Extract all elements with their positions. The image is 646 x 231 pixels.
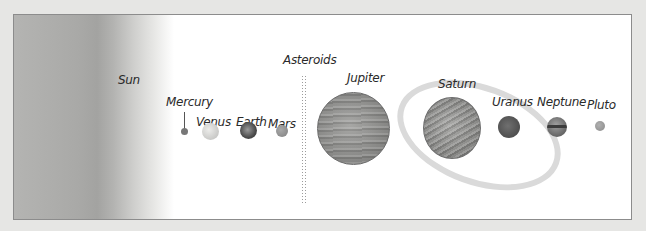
planet-uranus (498, 116, 520, 138)
label-asteroids: Asteroids (283, 53, 336, 67)
asteroid-belt (301, 75, 307, 203)
label-uranus: Uranus (492, 95, 533, 109)
planet-jupiter (317, 92, 390, 165)
label-neptune: Neptune (537, 95, 586, 109)
sun-body (14, 15, 174, 219)
planet-neptune (547, 117, 567, 137)
planet-saturn (423, 97, 481, 159)
planet-venus (202, 123, 219, 140)
label-saturn: Saturn (438, 77, 476, 91)
label-mercury: Mercury (166, 95, 213, 109)
label-jupiter: Jupiter (347, 71, 384, 85)
planet-mercury (181, 128, 188, 135)
diagram-frame: Sun Mercury Venus Earth Mars Asteroids J… (13, 14, 632, 220)
planet-pluto (595, 121, 605, 131)
label-pluto: Pluto (587, 98, 616, 112)
planet-mars (276, 125, 288, 137)
planet-earth (240, 122, 257, 139)
label-sun: Sun (118, 73, 140, 87)
